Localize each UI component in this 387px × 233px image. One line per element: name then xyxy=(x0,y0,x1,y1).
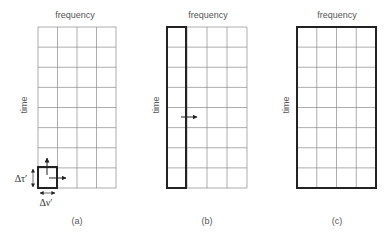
time-label-c: time xyxy=(281,96,291,113)
delta-nu-label: Δν′ xyxy=(39,197,52,208)
delta-tau-label: Δτ′ xyxy=(15,173,28,184)
frequency-label-b: frequency xyxy=(188,10,228,20)
time-label-b: time xyxy=(151,96,161,113)
time-label-a: time xyxy=(19,96,29,113)
grid-c xyxy=(297,27,376,188)
frequency-label-a: frequency xyxy=(55,10,95,20)
panel-a: frequency time Δτ′ Δν′ (a) xyxy=(15,10,116,226)
grid-b xyxy=(167,27,247,188)
grid-a xyxy=(38,27,116,188)
caption-b: (b) xyxy=(202,216,213,226)
panel-b: frequency time (b) xyxy=(151,10,247,226)
frequency-label-c: frequency xyxy=(317,10,357,20)
panel-c: frequency time (c) xyxy=(281,10,376,226)
time-frequency-diagram: frequency time Δτ′ Δν′ (a) frequency tim… xyxy=(0,0,387,233)
caption-c: (c) xyxy=(332,216,343,226)
caption-a: (a) xyxy=(72,216,83,226)
